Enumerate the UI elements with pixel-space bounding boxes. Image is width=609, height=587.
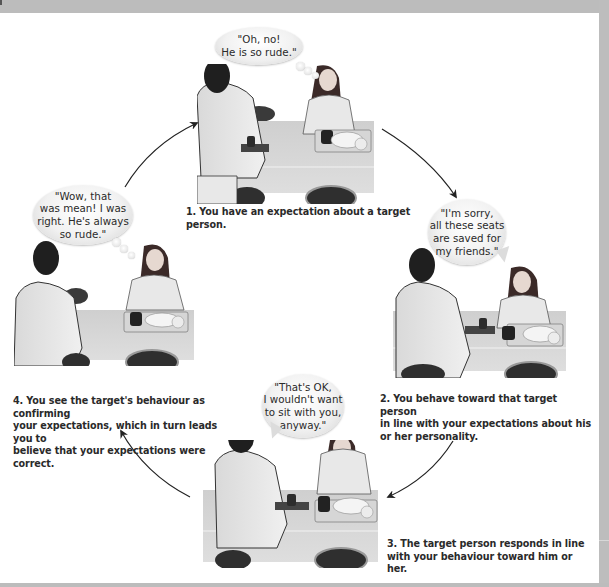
- thought-bubble-step-1: "Oh, no! He is so rude.": [215, 27, 303, 65]
- speech-bubble-step-2: "I'm sorry, all these seats are saved fo…: [428, 199, 506, 265]
- page-frame-bottom: [0, 583, 609, 587]
- bubble-text: "Oh, no! He is so rude.": [221, 33, 296, 58]
- page-frame-divider: [599, 540, 609, 541]
- scene-2-illustration: [393, 248, 566, 378]
- scene-4-illustration: [14, 238, 194, 366]
- bubble-text: "Wow, that was mean! I was right. He's a…: [37, 190, 129, 240]
- step-1-caption: 1. You have an expectation about a targe…: [186, 206, 426, 231]
- bubble-text: "I'm sorry, all these seats are saved fo…: [430, 207, 505, 257]
- scene-1-illustration: [197, 64, 374, 204]
- step-4-caption: 4. You see the target's behaviour as con…: [13, 395, 238, 470]
- cafeteria-scene-image: [14, 238, 194, 366]
- corner-mark: [0, 0, 2, 5]
- thought-puff: [120, 245, 128, 253]
- cafeteria-scene-image: [197, 64, 374, 204]
- thought-puff: [128, 252, 135, 259]
- page-frame-right: [599, 0, 609, 587]
- page-frame-top: [0, 0, 609, 13]
- step-3-caption: 3. The target person responds in line wi…: [387, 538, 592, 576]
- step-2-caption: 2. You behave toward that target person …: [380, 393, 595, 443]
- thought-puff: [112, 238, 121, 247]
- thought-puff: [304, 67, 312, 75]
- thought-puff: [312, 72, 319, 79]
- cafeteria-scene-image: [393, 248, 566, 378]
- thought-bubble-step-4: "Wow, that was mean! I was right. He's a…: [33, 185, 133, 245]
